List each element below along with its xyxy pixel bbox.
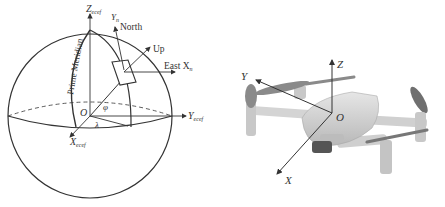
equator-front: [8, 116, 172, 128]
north-label: North: [120, 22, 142, 32]
y-ecef-label: Yecef: [188, 110, 205, 122]
z-ecef-label: Zecef: [86, 3, 103, 15]
ecef-sphere-svg: Zecef Yecef Xecef O Yn North Up East Xn …: [0, 0, 222, 207]
x-ecef-label: Xecef: [69, 136, 87, 148]
drone-origin-label: O: [336, 111, 344, 123]
drone-svg: Z Y X O: [222, 0, 445, 207]
latitude-label: φ: [103, 102, 108, 112]
drone-body-frame-diagram: Z Y X O: [222, 0, 445, 207]
drone-x-label: X: [284, 174, 293, 186]
propeller-back-left: [245, 84, 257, 108]
origin-label: O: [80, 107, 87, 118]
drone-arm-right: [372, 85, 431, 142]
drone-y-label: Y: [241, 70, 249, 82]
east-label: East Xn: [164, 61, 193, 72]
drone-arm-front-left: [320, 134, 344, 141]
drone-camera: [312, 141, 332, 153]
ecef-sphere-diagram: Zecef Yecef Xecef O Yn North Up East Xn …: [0, 0, 222, 207]
longitude-label: λ: [94, 120, 99, 130]
prime-meridian-label: Prime Meridian: [65, 37, 85, 95]
north-axis-label: Yn: [111, 12, 119, 23]
x-ecef-axis: [70, 116, 90, 137]
propeller-right: [407, 85, 431, 116]
drone-z-label: Z: [337, 58, 344, 70]
up-label: Up: [153, 44, 165, 54]
